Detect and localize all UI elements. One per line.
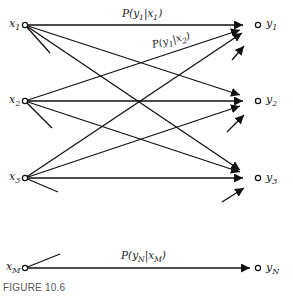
edge-y1-stub (232, 46, 244, 60)
node-y3 (255, 175, 260, 180)
figure-caption: FIGURE 10.6 (3, 282, 65, 293)
node-x3 (22, 175, 27, 180)
label-y1: y1 (265, 17, 277, 32)
edge-x2-y1 (25, 30, 240, 101)
edge-label-p-y1-x2: P(y1|x2) (150, 30, 192, 53)
edge-y3-stub (222, 188, 244, 202)
edges (25, 25, 250, 268)
node-xM (22, 265, 27, 270)
edge-x3-y1 (25, 33, 242, 178)
label-x1: x1 (9, 17, 20, 32)
edge-x2-y3 (25, 101, 240, 172)
node-x2 (22, 98, 27, 103)
edge-x3-stub (25, 178, 58, 192)
nodes (22, 22, 260, 270)
label-x2: x2 (9, 93, 20, 108)
node-yN (255, 265, 260, 270)
edge-y2-stub (227, 115, 244, 132)
edge-label-p-yN-xM: P(yN|xM) (120, 249, 166, 264)
edge-x3-y2 (25, 106, 240, 178)
edge-x1-y3 (25, 25, 240, 170)
label-yN: yN (265, 261, 280, 276)
channel-transition-diagram: x1 x2 x3 xM y1 y2 y3 yN P(y1|x1) P(y1|x2… (0, 0, 293, 299)
label-xM: xM (6, 260, 21, 275)
edge-xM-stub (25, 254, 60, 268)
node-x1 (22, 22, 27, 27)
node-y1 (255, 22, 260, 27)
node-y2 (255, 98, 260, 103)
label-y2: y2 (265, 93, 277, 108)
edge-label-p-y1-x1: P(y1|x1) (121, 7, 162, 22)
label-x3: x3 (9, 170, 20, 185)
edge-x1-y2 (25, 25, 240, 95)
label-y3: y3 (265, 171, 277, 186)
